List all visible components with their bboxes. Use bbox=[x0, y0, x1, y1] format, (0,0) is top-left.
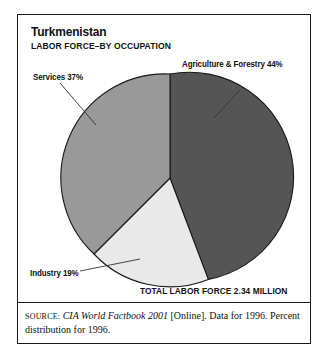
pie-label-industry: Industry 19% bbox=[30, 268, 79, 278]
pie-label-services: Services 37% bbox=[33, 72, 83, 82]
source-note: SOURCE: CIA World Factbook 2001 [Online]… bbox=[25, 309, 303, 336]
total-labor-force-label: TOTAL LABOR FORCE 2.34 MILLION bbox=[140, 286, 287, 296]
pie-label-agriculture: Agriculture & Forestry 44% bbox=[182, 59, 283, 69]
source-publication: CIA World Factbook 2001 bbox=[60, 310, 168, 321]
leader-line-services bbox=[60, 83, 96, 125]
figure-panel: Turkmenistan LABOR FORCE–BY OCCUPATION A… bbox=[17, 14, 311, 344]
source-word: SOURCE: bbox=[25, 312, 60, 321]
source-divider bbox=[18, 302, 310, 303]
